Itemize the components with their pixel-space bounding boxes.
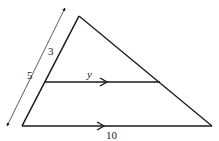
label-full-side: 5 bbox=[27, 69, 33, 81]
triangle-diagram: 3 5 y 10 bbox=[0, 0, 219, 141]
dimension-line-5 bbox=[7, 8, 65, 126]
triangle-right-side bbox=[79, 16, 212, 126]
label-upper-segment: 3 bbox=[48, 45, 54, 57]
label-middle-parallel: y bbox=[86, 68, 92, 80]
label-base: 10 bbox=[106, 129, 118, 141]
